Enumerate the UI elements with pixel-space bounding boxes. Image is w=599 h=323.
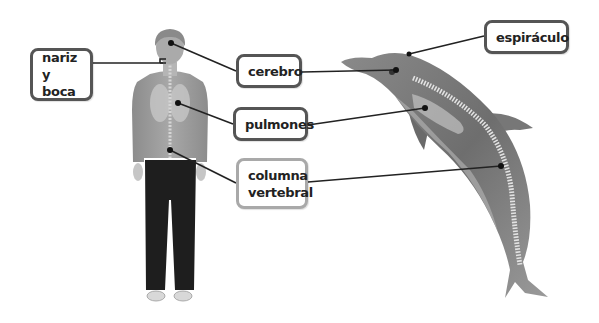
label-columna-vertebral: columna vertebral [236, 158, 308, 209]
label-text-line2: boca [42, 83, 81, 100]
leader-espiraculo [409, 36, 484, 54]
label-text-line1: nariz y [42, 49, 81, 83]
human-shoe-left [147, 291, 165, 301]
label-espiraculo: espiráculo [484, 20, 569, 54]
label-text-line1: columna [248, 167, 313, 184]
dot-human-brain [168, 40, 174, 46]
dot-dolphin-spine [498, 163, 504, 169]
label-text-line2: vertebral [248, 184, 313, 201]
dot-dolphin-brain [393, 67, 399, 73]
dot-dolphin-lungs [422, 105, 428, 111]
dot-human-lungs [175, 100, 181, 106]
human-pants [145, 160, 196, 290]
label-cerebro: cerebro [236, 54, 302, 88]
label-text: pulmones [245, 116, 314, 133]
dot-dolphin-blowhole [407, 52, 412, 57]
dolphin-figure [341, 53, 548, 298]
label-text: cerebro [248, 63, 302, 80]
label-nariz-y-boca: nariz y boca [30, 48, 93, 101]
human-figure [132, 29, 208, 301]
human-shoe-right [174, 291, 192, 301]
dot-human-spine [167, 147, 173, 153]
human-lung-left [150, 84, 170, 122]
leader-pulmones-dolphin [308, 108, 425, 125]
anatomy-comparison-diagram: nariz y boca cerebro pulmones columna ve… [0, 0, 599, 323]
label-pulmones: pulmones [233, 107, 308, 141]
label-text: espiráculo [496, 29, 569, 46]
human-hand-left [133, 163, 143, 181]
